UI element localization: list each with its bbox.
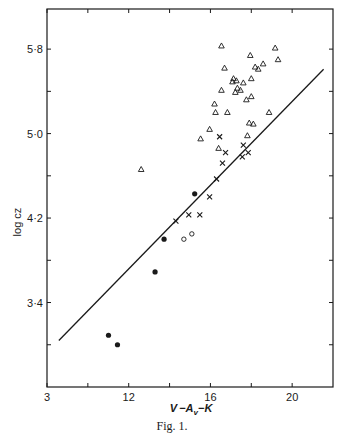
x-tick-label: 12 — [123, 391, 135, 403]
cross-marker — [241, 143, 246, 148]
triangle-marker — [244, 97, 250, 102]
cross-marker — [173, 219, 178, 224]
cross-marker — [240, 154, 245, 159]
fit-line — [59, 69, 324, 340]
triangle-marker — [241, 80, 247, 85]
triangle-marker — [260, 61, 266, 66]
filled-circle-marker — [115, 342, 120, 347]
series-crosses — [173, 134, 250, 223]
triangle-marker — [212, 101, 218, 106]
cross-marker — [217, 134, 222, 139]
open-circle-marker — [190, 232, 194, 236]
cross-marker — [214, 176, 219, 181]
cross-marker — [220, 161, 225, 166]
triangle-marker — [275, 57, 281, 62]
open-circle-marker — [182, 237, 186, 241]
figure-caption: Fig. 1. — [0, 419, 344, 434]
x-tick-label: 20 — [286, 391, 298, 403]
cross-marker — [223, 150, 228, 155]
triangle-marker — [219, 43, 225, 48]
triangle-marker — [272, 45, 278, 50]
triangle-marker — [216, 145, 222, 150]
y-tick-label: 3·4 — [27, 297, 43, 309]
plot-border — [47, 9, 333, 387]
cross-marker — [207, 194, 212, 199]
y-tick-label: 4·2 — [27, 212, 43, 224]
filled-circle-marker — [106, 333, 111, 338]
y-tick-label: 5·8 — [27, 43, 43, 55]
triangle-marker — [138, 166, 144, 171]
triangle-marker — [248, 76, 254, 81]
series-triangles — [138, 43, 280, 172]
filled-circle-marker — [192, 191, 197, 196]
regression-line — [59, 69, 324, 340]
triangle-marker — [225, 109, 231, 114]
series-open-circles — [182, 232, 194, 242]
triangle-marker — [245, 133, 251, 138]
triangle-marker — [248, 94, 254, 99]
triangle-marker — [266, 109, 272, 114]
filled-circle-marker — [152, 269, 157, 274]
cross-marker — [186, 212, 191, 217]
plot-frame — [47, 9, 333, 387]
scatter-chart: 31216203·44·25·05·8 log cz V −Av−K — [0, 0, 344, 440]
x-tick-label: 3 — [44, 391, 50, 403]
y-axis-label: log cz — [11, 208, 23, 237]
triangle-marker — [198, 136, 204, 141]
x-axis-label: V −Av−K — [170, 402, 214, 417]
triangle-marker — [207, 126, 213, 131]
triangle-marker — [222, 65, 228, 70]
cross-marker — [246, 150, 251, 155]
y-tick-label: 5·0 — [27, 128, 43, 140]
filled-circle-marker — [161, 237, 166, 242]
triangle-marker — [219, 87, 225, 92]
triangle-marker — [213, 109, 219, 114]
axis-ticks: 31216203·44·25·05·8 — [27, 9, 333, 403]
series-filled-circles — [106, 191, 197, 347]
triangle-marker — [247, 52, 253, 57]
data-points — [106, 43, 281, 347]
cross-marker — [197, 212, 202, 217]
